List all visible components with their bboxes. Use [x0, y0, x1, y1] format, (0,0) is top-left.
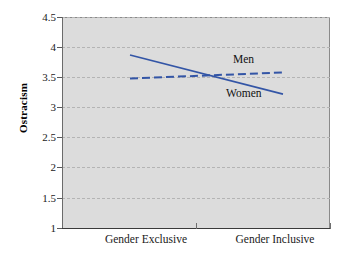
x-tick-mark-right — [330, 223, 331, 229]
series-label-women: Women — [226, 87, 261, 99]
y-tick-label-4.5: 4.5 — [16, 12, 56, 23]
chart-figure: 4.5 4 3.5 3 2.5 2 1.5 1 Ostracism Gender… — [0, 0, 354, 260]
y-tick-mark-4.5 — [57, 17, 62, 18]
y-tick-mark-1 — [57, 228, 62, 229]
y-tick-mark-3.5 — [57, 77, 62, 78]
y-tick-label-1.5: 1.5 — [16, 193, 56, 204]
y-axis-line — [62, 17, 63, 229]
y-tick-mark-4 — [57, 47, 62, 48]
y-tick-label-2: 2 — [16, 162, 56, 173]
y-tick-mark-1.5 — [57, 198, 62, 199]
gridline-1.5 — [62, 198, 330, 199]
y-tick-mark-3 — [57, 107, 62, 108]
x-tick-label-gender-inclusive: Gender Inclusive — [215, 233, 335, 245]
gridline-2.5 — [62, 137, 330, 138]
y-tick-label-4: 4 — [16, 42, 56, 53]
gridline-2 — [62, 167, 330, 168]
gridline-3 — [62, 107, 330, 108]
y-tick-mark-2.5 — [57, 137, 62, 138]
gridline-3.5 — [62, 77, 330, 78]
plot-area — [62, 17, 330, 228]
gridline-4.5 — [62, 17, 330, 18]
series-label-men: Men — [233, 53, 254, 65]
x-tick-mark-center — [196, 223, 197, 229]
gridline-4 — [62, 47, 330, 48]
y-tick-mark-2 — [57, 167, 62, 168]
x-tick-label-gender-exclusive: Gender Exclusive — [86, 233, 206, 245]
y-axis-title: Ostracism — [17, 63, 29, 153]
y-tick-label-1: 1 — [16, 223, 56, 234]
